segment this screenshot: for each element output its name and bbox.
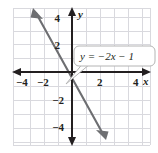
- callout-equation-text: y = −2x − 1: [79, 50, 134, 62]
- y-axis-label: y: [76, 8, 83, 20]
- y-tick-label-minus2: −2: [52, 94, 64, 106]
- coordinate-graph-figure: x y −4 −2 2 4 4 2 −2 −4 y = −2x − 1: [0, 0, 158, 153]
- equation-callout: y = −2x − 1: [74, 46, 155, 66]
- x-axis-label: x: [142, 75, 149, 87]
- y-tick-label-4: 4: [55, 12, 61, 24]
- line-y-equals-minus-2x-minus-1: [31, 8, 109, 140]
- y-tick-label-minus4: −4: [52, 121, 64, 133]
- line-arrow-lower: [96, 130, 109, 140]
- x-tick-label-2: 2: [97, 76, 103, 88]
- line-arrow-upper: [31, 8, 44, 19]
- x-tick-label-minus4: −4: [16, 76, 28, 88]
- y-tick-label-2: 2: [55, 39, 61, 51]
- x-tick-label-4: 4: [133, 76, 139, 88]
- x-tick-label-minus2: −2: [37, 76, 49, 88]
- grid-lines: [13, 8, 150, 145]
